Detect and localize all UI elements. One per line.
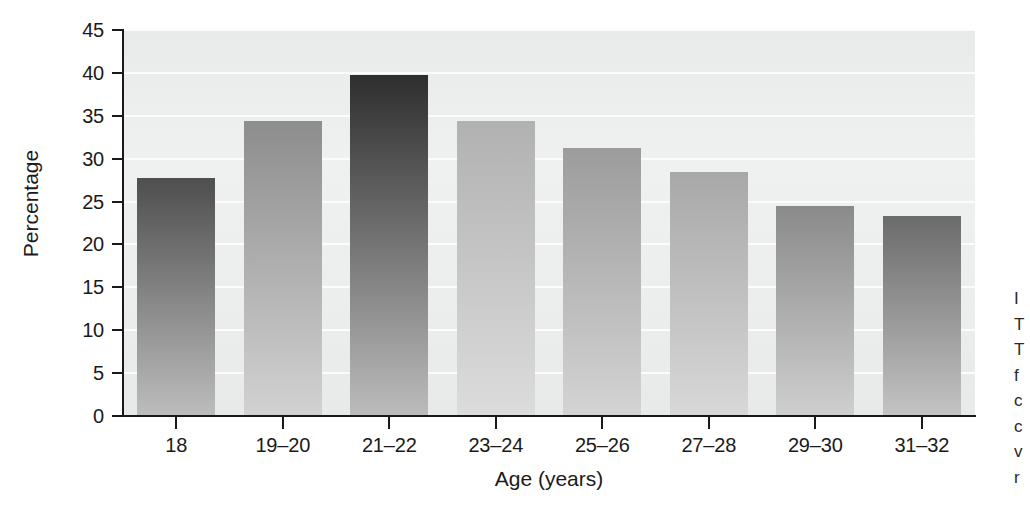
x-tick-mark: [708, 417, 710, 429]
plot-area: [123, 30, 975, 416]
y-tick-mark: [112, 243, 123, 245]
x-tick-label: 31–32: [869, 434, 976, 456]
caption-fragment-text: ITTfccvr: [1014, 286, 1030, 490]
y-tick-label: 40: [58, 63, 104, 83]
bar-23-24[interactable]: [457, 121, 535, 416]
y-tick-label: 25: [58, 192, 104, 212]
bar-19-20[interactable]: [244, 121, 322, 416]
x-tick-label: 29–30: [762, 434, 869, 456]
bars-layer: [123, 30, 975, 416]
x-axis-line: [122, 415, 976, 417]
caption-fragment-line: v: [1014, 439, 1030, 465]
x-tick-mark: [495, 417, 497, 429]
bar-18[interactable]: [137, 178, 215, 416]
y-tick-label: 20: [58, 234, 104, 254]
y-tick-mark: [112, 329, 123, 331]
y-tick-label: 15: [58, 277, 104, 297]
caption-fragment-line: I: [1014, 286, 1030, 312]
x-tick-label: 25–26: [549, 434, 656, 456]
caption-fragment-line: c: [1014, 388, 1030, 414]
x-tick-mark: [282, 417, 284, 429]
x-tick-label: 27–28: [656, 434, 763, 456]
x-tick-label: 18: [123, 434, 230, 456]
y-tick-label: 30: [58, 149, 104, 169]
y-tick-label: 45: [58, 20, 104, 40]
x-axis-title: Age (years): [123, 468, 975, 490]
y-tick-label: 0: [58, 406, 104, 426]
y-tick-mark: [112, 158, 123, 160]
bar-29-30[interactable]: [776, 206, 854, 416]
y-tick-mark: [112, 72, 123, 74]
x-tick-label: 19–20: [230, 434, 337, 456]
y-tick-label: 35: [58, 106, 104, 126]
x-tick-mark: [388, 417, 390, 429]
x-tick-mark: [921, 417, 923, 429]
y-axis-line: [122, 29, 124, 417]
bar-chart-figure: 051015202530354045 1819–2021–2223–2425–2…: [0, 0, 1030, 521]
y-tick-mark: [112, 415, 123, 417]
x-tick-mark: [601, 417, 603, 429]
x-tick-label: 23–24: [443, 434, 550, 456]
caption-fragment-line: T: [1014, 337, 1030, 363]
bar-21-22[interactable]: [350, 75, 428, 416]
y-tick-mark: [112, 286, 123, 288]
x-tick-mark: [175, 417, 177, 429]
x-tick-label: 21–22: [336, 434, 443, 456]
bar-27-28[interactable]: [670, 172, 748, 416]
caption-fragment-line: c: [1014, 414, 1030, 440]
caption-fragment-line: T: [1014, 312, 1030, 338]
caption-fragment-line: f: [1014, 363, 1030, 389]
x-tick-mark: [814, 417, 816, 429]
caption-fragment-line: r: [1014, 465, 1030, 491]
bar-31-32[interactable]: [883, 216, 961, 416]
y-tick-mark: [112, 372, 123, 374]
bar-25-26[interactable]: [563, 148, 641, 416]
y-tick-mark: [112, 115, 123, 117]
y-tick-mark: [112, 29, 123, 31]
y-tick-label: 10: [58, 320, 104, 340]
y-tick-mark: [112, 201, 123, 203]
y-axis-title: Percentage: [20, 114, 41, 294]
y-tick-label: 5: [58, 363, 104, 383]
